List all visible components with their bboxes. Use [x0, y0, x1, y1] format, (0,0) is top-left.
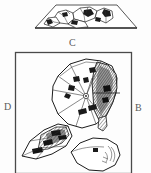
edge-label-d: D: [4, 102, 11, 112]
plan-view-panel: [0, 0, 151, 173]
object-teardrop: [71, 138, 120, 171]
figure-root: C D B large angular fragment with hatche…: [0, 0, 151, 173]
object-main: [52, 59, 120, 131]
object-wedge: [22, 124, 72, 159]
edge-label-c: C: [69, 38, 76, 48]
edge-label-b: B: [135, 103, 142, 113]
